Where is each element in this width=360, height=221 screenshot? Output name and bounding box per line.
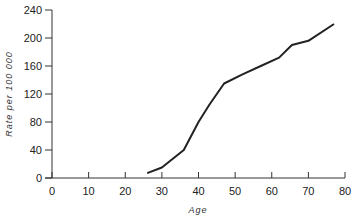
y-tick-label: 240 xyxy=(24,4,42,16)
x-tick-label: 50 xyxy=(229,185,241,197)
y-tick-label: 160 xyxy=(24,60,42,72)
data-series xyxy=(147,24,334,173)
y-tick-label: 80 xyxy=(30,116,42,128)
y-axis: 04080120160200240 xyxy=(24,4,52,184)
x-axis-title: Age xyxy=(187,205,207,215)
x-tick-label: 40 xyxy=(192,185,204,197)
x-tick-label: 0 xyxy=(49,185,55,197)
x-tick-label: 60 xyxy=(266,185,278,197)
y-tick-label: 120 xyxy=(24,88,42,100)
y-tick-label: 200 xyxy=(24,32,42,44)
x-axis: 01020304050607080 xyxy=(45,172,351,197)
x-tick-label: 10 xyxy=(83,185,95,197)
line-chart: 04080120160200240 01020304050607080 Age … xyxy=(0,0,360,221)
x-tick-label: 70 xyxy=(302,185,314,197)
y-tick-label: 40 xyxy=(30,144,42,156)
y-tick-label: 0 xyxy=(36,172,42,184)
x-tick-label: 20 xyxy=(119,185,131,197)
x-tick-label: 80 xyxy=(339,185,351,197)
y-axis-title: Rate per 100 000 xyxy=(4,51,14,137)
series-line xyxy=(147,24,334,173)
x-tick-label: 30 xyxy=(156,185,168,197)
